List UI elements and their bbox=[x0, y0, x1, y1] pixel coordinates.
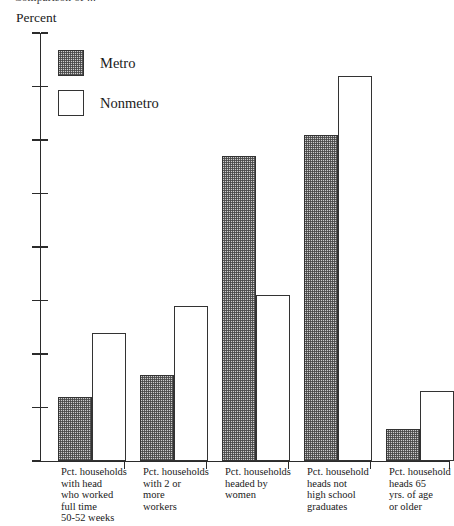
y-axis-tick-inner bbox=[41, 139, 48, 140]
x-axis-tick bbox=[370, 461, 371, 469]
y-axis-tick bbox=[32, 193, 40, 194]
bar-chart: Comparison of ... Percent 80706050403020… bbox=[0, 0, 454, 526]
bar-nonmetro bbox=[420, 391, 454, 461]
white-swatch-icon bbox=[58, 90, 84, 116]
y-axis-tick bbox=[32, 32, 40, 33]
x-axis-line bbox=[40, 461, 450, 462]
y-axis-tick-inner bbox=[41, 246, 48, 247]
y-axis-unit-label: Percent bbox=[16, 10, 56, 26]
bar-metro bbox=[140, 375, 174, 461]
clipped-header-caption: Comparison of ... bbox=[14, 0, 96, 3]
bar-nonmetro bbox=[256, 295, 290, 461]
y-axis-tick-inner bbox=[41, 86, 48, 87]
x-axis-category-label: Pct. household heads 65 yrs. of age or o… bbox=[389, 466, 451, 512]
bar-nonmetro bbox=[92, 333, 126, 461]
y-axis-tick bbox=[32, 407, 40, 408]
bar-nonmetro bbox=[174, 306, 208, 461]
y-axis-tick bbox=[32, 300, 40, 301]
legend: Metro Nonmetro bbox=[58, 48, 159, 128]
x-axis-category-label: Pct. households with head who worked ful… bbox=[61, 466, 127, 524]
bar-metro bbox=[386, 429, 420, 461]
x-axis-category-label: Pct. households headed by women bbox=[225, 466, 291, 501]
y-axis-tick bbox=[32, 460, 40, 461]
bar-metro bbox=[222, 156, 256, 461]
y-axis-tick-inner bbox=[41, 407, 48, 408]
y-axis-tick-inner bbox=[41, 32, 48, 33]
hatched-swatch-icon bbox=[58, 50, 84, 76]
bar-metro bbox=[304, 135, 338, 461]
y-axis-tick-inner bbox=[41, 300, 48, 301]
bar-metro bbox=[58, 397, 92, 461]
x-axis-category-label: Pct. households with 2 or more workers bbox=[143, 466, 209, 512]
y-axis-tick bbox=[32, 246, 40, 247]
y-axis-tick bbox=[32, 139, 40, 140]
x-axis-category-label: Pct. household heads not high school gra… bbox=[307, 466, 369, 512]
legend-label: Metro bbox=[100, 55, 135, 72]
y-axis-tick-inner bbox=[41, 193, 48, 194]
legend-item-metro: Metro bbox=[58, 48, 159, 78]
y-axis-tick bbox=[32, 86, 40, 87]
y-axis-tick-inner bbox=[41, 353, 48, 354]
bar-nonmetro bbox=[338, 76, 372, 461]
y-axis-tick bbox=[32, 353, 40, 354]
legend-item-nonmetro: Nonmetro bbox=[58, 88, 159, 118]
legend-label: Nonmetro bbox=[100, 95, 159, 112]
